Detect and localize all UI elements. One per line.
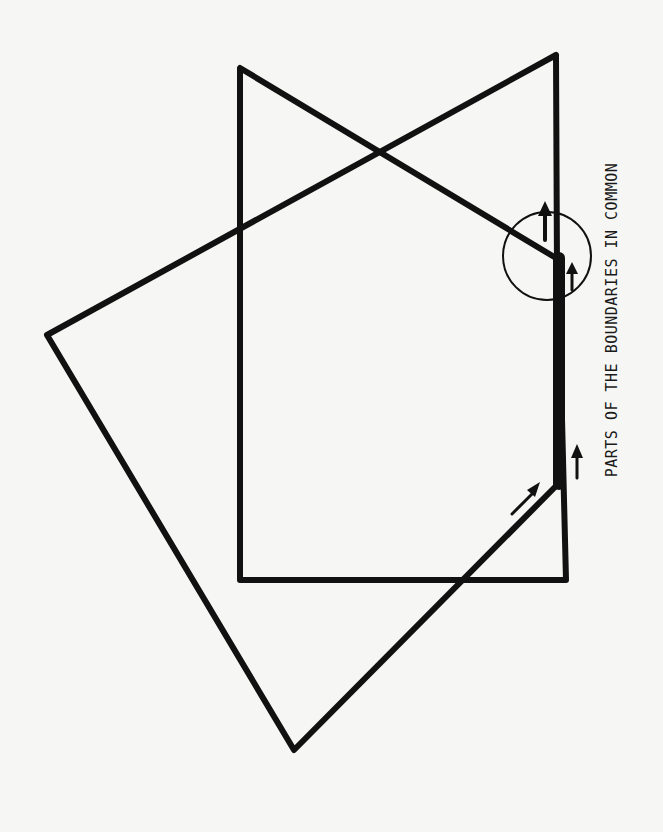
- arrow-up-top-icon: [538, 201, 552, 240]
- pentagon-shape: [47, 55, 558, 750]
- arrow-up-inner-icon: [566, 262, 578, 290]
- caption-text: PARTS OF THE BOUNDARIES IN COMMON: [603, 163, 621, 478]
- diagram-canvas: [0, 0, 663, 832]
- arrow-up-lower-icon: [571, 444, 583, 478]
- rectangle-shape: [240, 68, 566, 580]
